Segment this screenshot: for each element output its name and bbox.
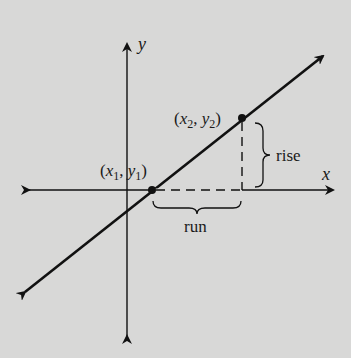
point-1-label: (x1, y1): [100, 161, 147, 183]
slope-diagram: y x (x1, y1) (x2, y2) rise run: [0, 0, 351, 358]
point-2-label: (x2, y2): [174, 109, 221, 131]
point-1: [148, 186, 156, 194]
run-brace: [153, 201, 241, 214]
run-label: run: [184, 217, 207, 236]
rise-label: rise: [276, 146, 301, 165]
x-axis-label: x: [321, 164, 330, 184]
sloped-line: [25, 56, 323, 292]
rise-brace: [255, 123, 270, 187]
diagram-canvas: y x (x1, y1) (x2, y2) rise run: [0, 0, 351, 358]
y-axis-label: y: [136, 34, 146, 54]
point-2: [238, 114, 246, 122]
